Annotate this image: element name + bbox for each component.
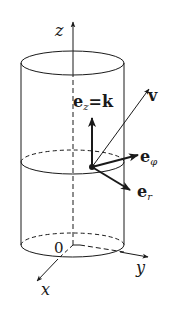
z-axis-label: z bbox=[54, 21, 64, 40]
ephi-label-main: e bbox=[140, 147, 150, 166]
er-label-sub: r bbox=[147, 191, 153, 202]
v-label: v bbox=[147, 86, 158, 105]
x-axis-arrow bbox=[37, 259, 58, 281]
y-axis-arrow bbox=[120, 252, 148, 257]
ez-label-main: e bbox=[73, 92, 83, 111]
y-axis-label: y bbox=[135, 258, 146, 277]
er-label-main: e bbox=[137, 182, 147, 201]
ez-label-eq: =k bbox=[88, 92, 113, 111]
x-axis-label: x bbox=[41, 280, 50, 299]
ez-label: ez=k bbox=[73, 92, 114, 112]
bottom-ellipse-front bbox=[21, 245, 124, 257]
cylindrical-coordinates-diagram: z y x 0 ez=k v eφ er bbox=[0, 0, 175, 310]
ephi-label: eφ bbox=[140, 147, 157, 167]
ephi-label-sub: φ bbox=[150, 156, 157, 167]
er-label: er bbox=[137, 182, 153, 202]
origin-label: 0 bbox=[54, 239, 64, 257]
